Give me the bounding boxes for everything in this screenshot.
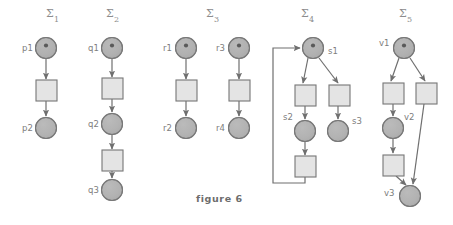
sigma-3-title-subscript: 3: [214, 15, 219, 24]
transition-sigma-5-t3: [383, 155, 404, 176]
token-r3: [237, 43, 241, 47]
arc-s1-to-t1: [303, 58, 308, 83]
figure-caption: figure 6: [196, 193, 243, 204]
sigma-1-title-subscript: 1: [54, 15, 59, 24]
transition-sigma-2-t1: [102, 78, 123, 99]
nets-layer: Σ1p1p2Σ2q1q2q3Σ3r1r2r3r4Σ4s1s2s3Σ5v1v2v3: [22, 7, 437, 207]
sigma-1-title-sigma: Σ: [46, 7, 54, 20]
arc-s1-to-t2: [319, 58, 338, 83]
place-label-s1: s1: [328, 46, 338, 56]
transition-sigma-3-t1: [176, 80, 197, 101]
transition-sigma-3-t2: [229, 80, 250, 101]
petri-net-sigma-4: Σ4s1s2s3: [273, 7, 362, 183]
token-v1: [402, 43, 406, 47]
sigma-5-title: Σ5: [399, 7, 412, 24]
sigma-5-title-subscript: 5: [407, 15, 412, 24]
place-label-r1: r1: [163, 43, 172, 53]
place-label-q1: q1: [88, 43, 99, 53]
arc-v1-to-t2: [410, 58, 425, 81]
transition-sigma-4-t1: [295, 85, 316, 106]
place-label-q3: q3: [88, 185, 99, 195]
sigma-2-title-sigma: Σ: [106, 7, 114, 20]
arc-t3-to-v3: [396, 176, 406, 185]
place-label-p2: p2: [22, 123, 33, 133]
petri-net-figure: Σ1p1p2Σ2q1q2q3Σ3r1r2r3r4Σ4s1s2s3Σ5v1v2v3…: [0, 0, 453, 225]
token-p1: [44, 43, 48, 47]
place-label-v1: v1: [379, 38, 389, 48]
place-label-p1: p1: [22, 43, 33, 53]
place-label-v2: v2: [404, 112, 414, 122]
place-label-r2: r2: [163, 123, 172, 133]
transition-sigma-5-t2: [416, 83, 437, 104]
sigma-2-title-subscript: 2: [114, 15, 119, 24]
place-label-s2: s2: [283, 112, 293, 122]
transition-sigma-5-t1: [383, 83, 404, 104]
arc-v1-to-t1: [391, 58, 399, 81]
place-label-r4: r4: [216, 123, 225, 133]
place-label-r3: r3: [216, 43, 225, 53]
sigma-1-title: Σ1: [46, 7, 59, 24]
sigma-4-title: Σ4: [301, 7, 314, 24]
sigma-3-title-sigma: Σ: [206, 7, 214, 20]
sigma-2-title: Σ2: [106, 7, 119, 24]
figure-canvas: Σ1p1p2Σ2q1q2q3Σ3r1r2r3r4Σ4s1s2s3Σ5v1v2v3…: [0, 0, 453, 225]
transition-sigma-4-t2: [329, 85, 350, 106]
transition-sigma-4-t3: [295, 156, 316, 177]
arc-t2-to-v3: [413, 104, 424, 184]
sigma-3-title: Σ3: [206, 7, 219, 24]
transition-sigma-2-t2: [102, 150, 123, 171]
sigma-5-title-sigma: Σ: [399, 7, 407, 20]
sigma-4-title-sigma: Σ: [301, 7, 309, 20]
petri-net-sigma-1: Σ1p1p2: [22, 7, 59, 139]
place-label-v3: v3: [384, 188, 394, 198]
token-s1: [311, 43, 315, 47]
petri-net-sigma-2: Σ2q1q2q3: [88, 7, 123, 201]
place-label-s3: s3: [352, 116, 362, 126]
token-r1: [184, 43, 188, 47]
token-q1: [110, 43, 114, 47]
petri-net-sigma-3: Σ3r1r2r3r4: [163, 7, 250, 139]
transition-sigma-1-t1: [36, 80, 57, 101]
petri-net-sigma-5: Σ5v1v2v3: [379, 7, 437, 207]
place-label-q2: q2: [88, 119, 99, 129]
sigma-4-title-subscript: 4: [309, 15, 314, 24]
